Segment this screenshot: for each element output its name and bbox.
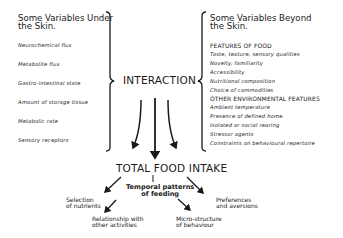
- micro-structure-of-behaviour: Micro-structure of behaviour: [176, 216, 222, 228]
- left-item-metabolic-rate: Metabolic rate: [18, 118, 58, 124]
- micro-line2: of behaviour: [176, 222, 222, 228]
- temporal-patterns-label: Temporal patterns of feeding: [126, 184, 194, 198]
- right-item-ambient: Ambient temperature: [210, 104, 270, 110]
- total-food-intake-label: TOTAL FOOD INTAKE: [116, 162, 227, 174]
- left-item-storage: Amount of storage tissue: [18, 99, 88, 105]
- left-brace: [106, 12, 114, 151]
- right-item-accessibility: Accessibility: [210, 69, 245, 75]
- right-brace: [198, 12, 206, 151]
- right-item-taste: Taste, texture, sensory qualities: [210, 51, 300, 57]
- preferences-line2: and aversions: [216, 203, 258, 209]
- relationship-with-activities: Relationship with other activities: [92, 216, 143, 228]
- preferences-and-aversions: Preferences and aversions: [216, 197, 258, 209]
- left-title: Some Variables Under the Skin.: [18, 14, 113, 30]
- other-environmental-heading: OTHER ENVIRONMENTAL FEATURES: [210, 95, 320, 102]
- right-item-rearing: Isolated or social rearing: [210, 122, 279, 128]
- right-item-novelty: Novelty, familiarity: [210, 60, 263, 66]
- temporal-line2: of feeding: [126, 191, 194, 198]
- right-item-choice: Choice of commodities: [210, 87, 273, 93]
- left-title-line2: the Skin.: [18, 22, 113, 30]
- right-title-line2: the Skin.: [210, 22, 312, 30]
- interaction-label: INTERACTION: [123, 74, 196, 86]
- features-of-food-heading: FEATURES OF FOOD: [210, 42, 272, 49]
- right-item-constraints: Constraints on behavioural repertoire: [210, 140, 315, 146]
- left-item-neurochemical: Neurochemical flux: [18, 42, 72, 48]
- right-item-stressor: Stressor agents: [210, 131, 254, 137]
- selection-line2: of nutrients: [66, 203, 101, 209]
- right-title: Some Variables Beyond the Skin.: [210, 14, 312, 30]
- relationship-line2: other activities: [92, 222, 143, 228]
- right-item-home: Presence of defined home: [210, 113, 283, 119]
- left-item-sensory: Sensory receptors: [18, 137, 69, 143]
- left-item-gastro: Gastro-intestinal state: [18, 80, 81, 86]
- selection-of-nutrients: Selection of nutrients: [66, 197, 101, 209]
- left-item-metabolite: Metabolite flux: [18, 61, 60, 67]
- right-item-nutritional: Nutritional composition: [210, 78, 275, 84]
